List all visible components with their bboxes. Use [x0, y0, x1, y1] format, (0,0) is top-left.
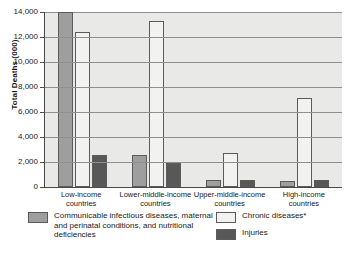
- gridline: [45, 37, 342, 38]
- y-axis-tick-label: 2,000: [18, 157, 38, 166]
- legend-label-injuries: Injuries: [242, 228, 268, 238]
- bar: [223, 153, 238, 187]
- bar-group: [119, 12, 193, 187]
- legend-label-communicable: Communicable infectious diseases, matern…: [54, 211, 216, 240]
- legend-item-injuries: Injuries: [216, 228, 346, 240]
- y-axis-tick-label: 14,000: [14, 7, 38, 16]
- bar-groups: [45, 12, 342, 187]
- bar: [92, 155, 107, 188]
- legend-item-chronic: Chronic diseases*: [216, 211, 346, 223]
- chart-legend: Communicable infectious diseases, matern…: [28, 211, 346, 240]
- legend-swatch-injuries: [216, 229, 236, 240]
- gridline: [45, 162, 342, 163]
- bar-chart: Total Deaths (000) 02,0004,0006,0008,000…: [0, 0, 349, 254]
- y-axis-tick-label: 8,000: [18, 82, 38, 91]
- bar: [75, 32, 90, 187]
- bar: [314, 180, 329, 188]
- legend-swatch-communicable: [28, 212, 48, 223]
- legend-item-communicable: Communicable infectious diseases, matern…: [28, 211, 216, 240]
- x-axis-label: Upper-middle-income countries: [193, 190, 267, 208]
- bar: [166, 163, 181, 187]
- x-axis-label: Lower-middle-income countries: [118, 190, 192, 208]
- x-axis-labels: Low-income countriesLower-middle-income …: [44, 190, 341, 208]
- bar-group: [268, 12, 342, 187]
- bar-group: [194, 12, 268, 187]
- bar: [132, 155, 147, 188]
- bar: [58, 12, 73, 187]
- plot-area: [44, 12, 342, 188]
- bar: [206, 180, 221, 188]
- gridline: [45, 62, 342, 63]
- gridline: [45, 112, 342, 113]
- legend-column-right: Chronic diseases* Injuries: [216, 211, 346, 240]
- y-axis-tick-label: 0: [34, 182, 38, 191]
- legend-column-left: Communicable infectious diseases, matern…: [28, 211, 216, 240]
- x-axis-label: High-income countries: [267, 190, 341, 208]
- gridline: [45, 137, 342, 138]
- y-axis-tick-label: 6,000: [18, 107, 38, 116]
- bar-group: [45, 12, 119, 187]
- y-axis-tick-label: 12,000: [14, 32, 38, 41]
- x-axis-label: Low-income countries: [44, 190, 118, 208]
- legend-label-chronic: Chronic diseases*: [242, 211, 306, 221]
- y-axis-tick-label: 4,000: [18, 132, 38, 141]
- bar: [280, 181, 295, 187]
- legend-swatch-chronic: [216, 212, 236, 223]
- y-axis-ticks: 02,0004,0006,0008,00010,00012,00014,000: [0, 0, 44, 175]
- y-axis-tick-label: 10,000: [14, 57, 38, 66]
- gridline: [45, 87, 342, 88]
- bar: [240, 180, 255, 188]
